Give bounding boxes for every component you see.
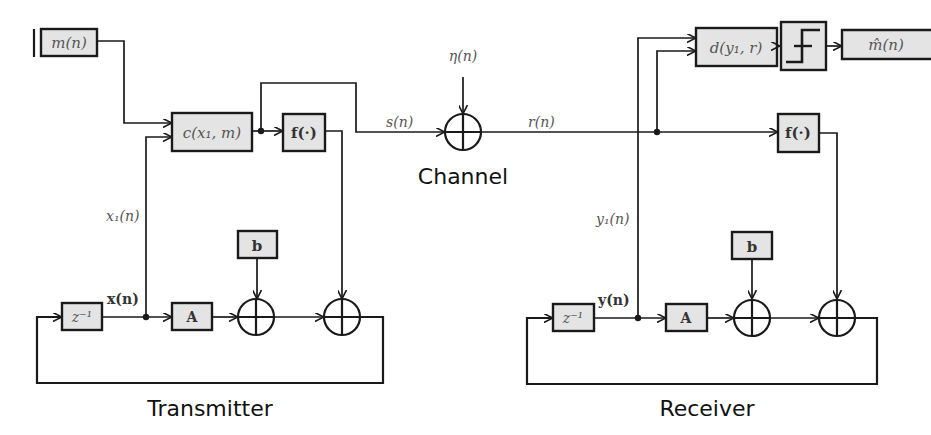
decoder-block: d(y₁, r): [696, 28, 777, 66]
transmitter-sum-1: [238, 299, 274, 335]
svg-text:x₁(n): x₁(n): [106, 208, 139, 224]
transmitter-matrix-block: A: [172, 303, 212, 330]
junction-dot: [143, 314, 149, 320]
svg-text:r(n): r(n): [528, 114, 555, 130]
chaotic-communication-block-diagram: m(n) c(x₁, m) f(·) x₁(n) b: [0, 0, 931, 435]
svg-text:Receiver: Receiver: [659, 396, 755, 421]
svg-text:Channel: Channel: [418, 164, 508, 189]
svg-text:A: A: [680, 310, 693, 326]
svg-text:d(y₁, r): d(y₁, r): [710, 39, 763, 57]
svg-text:y₁(n): y₁(n): [595, 211, 629, 227]
message-input-block: m(n): [41, 29, 97, 56]
svg-text:A: A: [186, 309, 199, 325]
y1-to-decoder-wire: [638, 38, 695, 317]
svg-text:z⁻¹: z⁻¹: [71, 309, 92, 325]
transmitter-sum-2: [324, 299, 360, 335]
svg-text:b: b: [252, 237, 263, 255]
receiver-sum-2: [819, 300, 855, 336]
receiver-sum-1: [734, 300, 770, 336]
x1-wire: [146, 137, 171, 317]
svg-text:z⁻¹: z⁻¹: [562, 310, 583, 326]
channel-sum: [445, 114, 481, 150]
transmitter-bias-block: b: [238, 231, 277, 258]
transmitter-section: m(n) c(x₁, m) f(·) x₁(n) b: [34, 29, 444, 421]
receiver-delay-block: z⁻¹: [553, 304, 594, 331]
f-to-sum-wire: [819, 133, 837, 298]
svg-text:b: b: [747, 238, 758, 256]
svg-text:x(n): x(n): [107, 291, 139, 307]
f-to-sum-wire: [325, 131, 342, 298]
transmitter-f-block: f(·): [283, 114, 325, 151]
threshold-block: [781, 22, 826, 70]
encoder-block: c(x₁, m): [172, 113, 252, 151]
receiver-matrix-block: A: [666, 304, 707, 331]
junction-dot: [635, 315, 641, 321]
svg-text:Transmitter: Transmitter: [146, 396, 273, 421]
svg-text:m̂(n): m̂(n): [868, 36, 904, 54]
r-to-decoder-wire: [657, 51, 695, 132]
receiver-section: d(y₁, r) m̂(n) f(·) y₁(n) b: [481, 22, 931, 421]
svg-text:f(·): f(·): [291, 124, 317, 142]
transmitter-delay-block: z⁻¹: [62, 303, 102, 330]
svg-text:y(n): y(n): [597, 292, 630, 308]
svg-text:s(n): s(n): [386, 114, 413, 130]
svg-text:f(·): f(·): [785, 124, 811, 142]
receiver-bias-block: b: [732, 232, 772, 259]
svg-text:m(n): m(n): [51, 34, 87, 52]
receiver-f-block: f(·): [778, 114, 819, 152]
svg-text:c(x₁, m): c(x₁, m): [183, 124, 241, 142]
message-wire: [97, 41, 171, 123]
message-output-block: m̂(n): [842, 30, 931, 59]
svg-text:η(n): η(n): [449, 48, 477, 64]
channel-section: s(n) η(n) r(n) Channel: [386, 48, 555, 189]
